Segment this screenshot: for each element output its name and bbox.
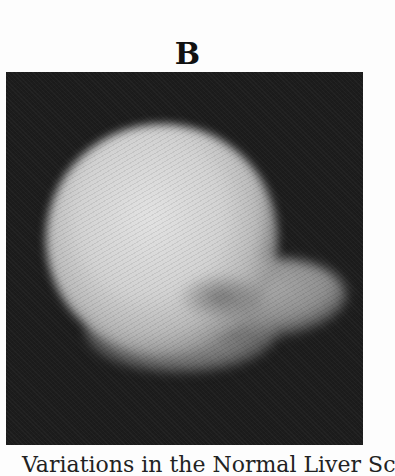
panel-label: B bbox=[0, 36, 375, 72]
film-grain bbox=[6, 72, 363, 445]
figure-caption: Variations in the Normal Liver Sc bbox=[22, 452, 395, 476]
liver-scan-image bbox=[6, 72, 363, 445]
